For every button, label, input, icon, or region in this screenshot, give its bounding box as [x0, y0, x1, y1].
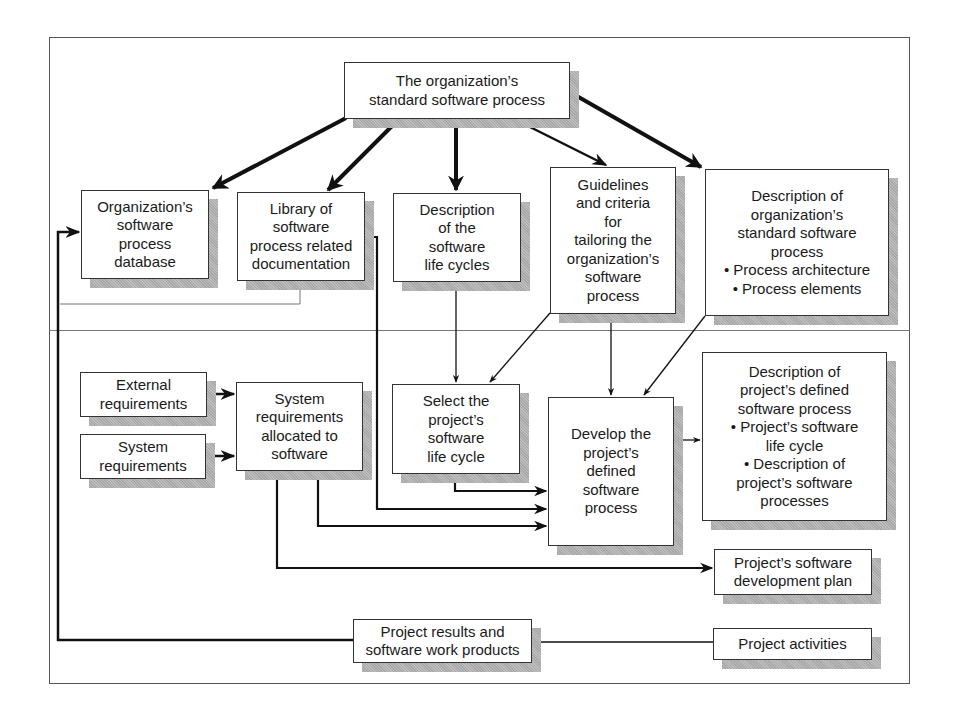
node-label: Description of organization’s standard s… — [724, 187, 870, 298]
node-develop-defined-process: Develop the project’s defined software p… — [548, 397, 674, 546]
node-label: Select the project’s software life cycle — [423, 392, 490, 466]
node-label: Develop the project’s defined software p… — [571, 425, 651, 518]
node-sys-reqs-alloc: System requirements allocated to softwar… — [236, 382, 363, 471]
node-library-docs: Library of software process related docu… — [237, 192, 365, 281]
edge-std-to-library — [328, 118, 400, 190]
node-select-life-cycle: Select the project’s software life cycle — [392, 384, 520, 474]
node-label: Guidelines and criteria for tailoring th… — [567, 176, 659, 306]
node-label: Organization’s software process database — [97, 198, 193, 272]
node-label: Description of the software life cycles — [419, 201, 494, 275]
node-org-process-db: Organization’s software process database — [81, 190, 209, 279]
node-system-reqs: System requirements — [80, 434, 206, 479]
node-label: System requirements allocated to softwar… — [256, 390, 344, 464]
node-tailoring-guidelines: Guidelines and criteria for tailoring th… — [550, 167, 676, 314]
node-label: Project’s software development plan — [734, 554, 852, 591]
node-org-std-process: The organization’s standard software pro… — [344, 62, 570, 119]
node-desc-project-process: Description of project’s defined softwar… — [702, 352, 887, 521]
edge-std-to-db — [213, 118, 346, 188]
node-desc-org-std-process: Description of organization’s standard s… — [705, 169, 889, 316]
node-label: External requirements — [100, 376, 188, 413]
edge-descorg-to-develop — [644, 316, 705, 395]
node-label: The organization’s standard software pro… — [369, 72, 545, 109]
node-external-reqs: External requirements — [80, 372, 207, 417]
node-label: Project activities — [738, 635, 846, 654]
node-label: Project results and software work produc… — [365, 623, 519, 660]
node-dev-plan: Project’s software development plan — [714, 549, 872, 595]
node-desc-life-cycles: Description of the software life cycles — [393, 193, 521, 282]
node-label: Library of software process related docu… — [250, 200, 353, 274]
node-results-products: Project results and software work produc… — [353, 619, 532, 663]
edge-guidelines-to-select — [490, 313, 550, 382]
node-label: System requirements — [99, 438, 187, 475]
node-project-activities: Project activities — [713, 628, 872, 660]
node-label: Description of project’s defined softwar… — [731, 363, 859, 511]
